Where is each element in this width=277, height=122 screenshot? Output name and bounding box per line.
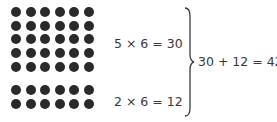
sum-equation: 30 + 12 = 42 bbox=[198, 56, 277, 69]
